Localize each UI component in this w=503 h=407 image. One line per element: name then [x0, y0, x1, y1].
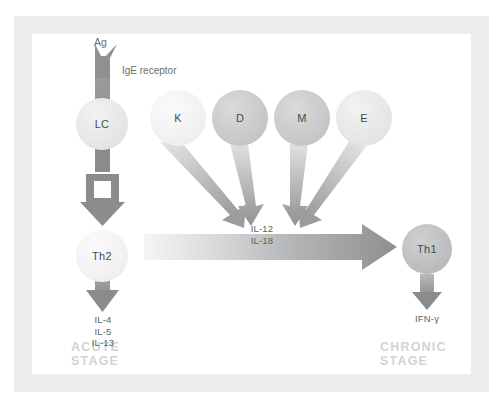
figure-root: LC Th2 K D M E Th1 Ag IgE receptor IL-4 … — [0, 0, 503, 407]
cell-th1: Th1 — [402, 224, 452, 274]
cell-e-label: E — [360, 112, 368, 124]
cell-e: E — [336, 90, 392, 146]
converging-arrows — [160, 138, 368, 228]
activation-arrow — [80, 174, 125, 226]
chronic-cytokine: IFN-γ — [396, 313, 458, 325]
cell-lc-label: LC — [95, 118, 110, 130]
cell-th2-label: Th2 — [92, 250, 112, 262]
cell-m: M — [274, 90, 330, 146]
cell-k: K — [150, 90, 206, 146]
antigen-label: Ag — [94, 36, 107, 48]
diagram-canvas: LC Th2 K D M E Th1 Ag IgE receptor IL-4 … — [32, 34, 471, 374]
cell-k-label: K — [174, 112, 182, 124]
th1-output-arrow — [412, 274, 442, 310]
central-cytokines: IL-12 IL-18 — [231, 223, 293, 246]
cell-th2: Th2 — [76, 230, 128, 282]
ige-receptor-label: IgE receptor — [122, 65, 176, 76]
stage-chronic-label: CHRONIC STAGE — [380, 340, 447, 368]
acute-cytokines: IL-4 IL-5 IL-13 — [72, 314, 134, 349]
cell-d: D — [212, 90, 268, 146]
cell-th1-label: Th1 — [417, 243, 437, 255]
cell-lc: LC — [76, 98, 128, 150]
cell-d-label: D — [236, 112, 244, 124]
cell-m-label: M — [297, 112, 306, 124]
